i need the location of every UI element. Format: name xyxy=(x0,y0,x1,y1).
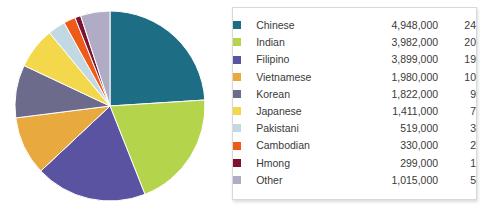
legend-label: Vietnamese xyxy=(256,69,356,86)
legend-label: Pakistani xyxy=(256,120,356,137)
legend-table-body: Chinese4,948,00024Indian3,982,00020Filip… xyxy=(233,17,476,189)
legend-swatch-cell xyxy=(233,17,256,34)
legend-percent: 20 xyxy=(438,34,476,51)
legend-row[interactable]: Korean1,822,0009 xyxy=(233,86,476,103)
legend-row[interactable]: Filipino3,899,00019 xyxy=(233,51,476,68)
legend-value: 299,000 xyxy=(356,155,438,172)
legend-swatch-cell xyxy=(233,86,256,103)
color-swatch-icon xyxy=(233,73,241,81)
legend-label: Indian xyxy=(256,34,356,51)
legend-swatch-cell xyxy=(233,34,256,51)
legend-value: 4,948,000 xyxy=(356,17,438,34)
legend-label: Other xyxy=(256,172,356,189)
legend-label: Japanese xyxy=(256,103,356,120)
color-swatch-icon xyxy=(233,159,241,167)
legend-row[interactable]: Cambodian330,0002 xyxy=(233,137,476,154)
pie-slice-group xyxy=(15,11,205,201)
legend-value: 3,982,000 xyxy=(356,34,438,51)
legend-percent: 1 xyxy=(438,155,476,172)
legend-swatch-cell xyxy=(233,51,256,68)
legend-row[interactable]: Japanese1,411,0007 xyxy=(233,103,476,120)
legend-value: 1,980,000 xyxy=(356,69,438,86)
legend-swatch-cell xyxy=(233,137,256,154)
legend-table: Chinese4,948,00024Indian3,982,00020Filip… xyxy=(233,17,476,189)
legend-label: Chinese xyxy=(256,17,356,34)
legend-swatch-cell xyxy=(233,120,256,137)
legend-percent: 10 xyxy=(438,69,476,86)
legend-row[interactable]: Vietnamese1,980,00010 xyxy=(233,69,476,86)
legend-row[interactable]: Chinese4,948,00024 xyxy=(233,17,476,34)
legend-swatch-cell xyxy=(233,155,256,172)
color-swatch-icon xyxy=(233,142,241,150)
legend-percent: 3 xyxy=(438,120,476,137)
legend-percent: 9 xyxy=(438,86,476,103)
legend-label: Korean xyxy=(256,86,356,103)
pie-slice[interactable] xyxy=(110,11,205,106)
legend-swatch-cell xyxy=(233,69,256,86)
color-swatch-icon xyxy=(233,56,241,64)
legend-label: Cambodian xyxy=(256,137,356,154)
legend-percent: 19 xyxy=(438,51,476,68)
color-swatch-icon xyxy=(233,21,241,29)
legend-row[interactable]: Indian3,982,00020 xyxy=(233,34,476,51)
legend-label: Hmong xyxy=(256,155,356,172)
legend-value: 1,822,000 xyxy=(356,86,438,103)
legend-percent: 24 xyxy=(438,17,476,34)
color-swatch-icon xyxy=(233,90,241,98)
legend-percent: 5 xyxy=(438,172,476,189)
legend-value: 1,411,000 xyxy=(356,103,438,120)
legend-percent: 2 xyxy=(438,137,476,154)
color-swatch-icon xyxy=(233,38,241,46)
legend-swatch-cell xyxy=(233,172,256,189)
legend-value: 330,000 xyxy=(356,137,438,154)
legend-row[interactable]: Hmong299,0001 xyxy=(233,155,476,172)
legend-value: 519,000 xyxy=(356,120,438,137)
legend-row[interactable]: Other1,015,0005 xyxy=(233,172,476,189)
legend-row[interactable]: Pakistani519,0003 xyxy=(233,120,476,137)
legend-value: 3,899,000 xyxy=(356,51,438,68)
pie-chart xyxy=(8,5,218,210)
legend-panel: Chinese4,948,00024Indian3,982,00020Filip… xyxy=(232,7,477,200)
color-swatch-icon xyxy=(233,124,241,132)
color-swatch-icon xyxy=(233,176,241,184)
legend-label: Filipino xyxy=(256,51,356,68)
legend-percent: 7 xyxy=(438,103,476,120)
legend-value: 1,015,000 xyxy=(356,172,438,189)
color-swatch-icon xyxy=(233,107,241,115)
legend-swatch-cell xyxy=(233,103,256,120)
pie-chart-svg xyxy=(8,5,218,210)
